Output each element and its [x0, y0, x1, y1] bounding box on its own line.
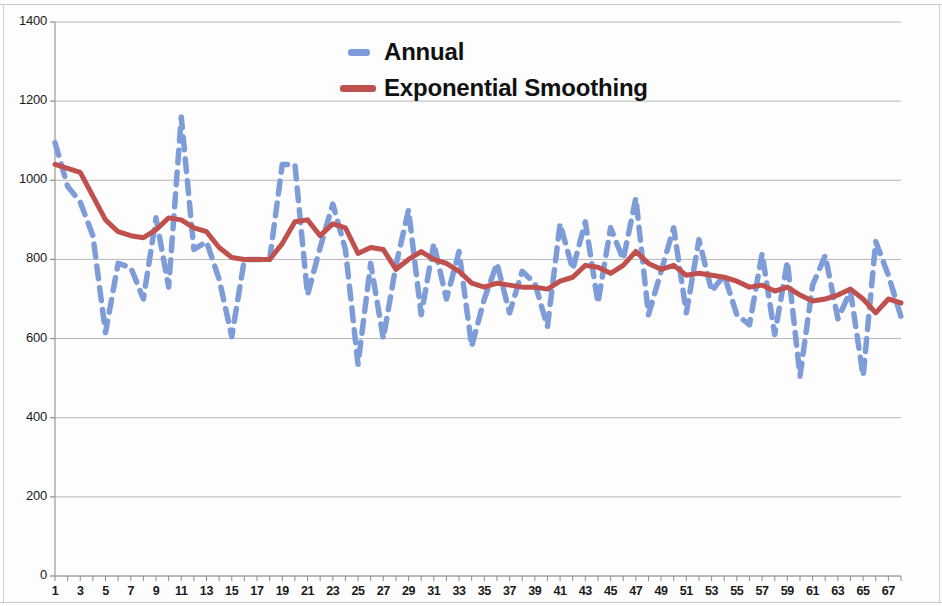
legend-label-annual: Annual — [384, 38, 464, 66]
y-axis-tick-label: 800 — [3, 250, 47, 265]
x-axis-tick-label: 63 — [825, 584, 851, 598]
x-axis-tick-label: 49 — [648, 584, 674, 598]
y-axis-tick-label: 1000 — [3, 171, 47, 186]
x-axis-tick-label: 45 — [598, 584, 624, 598]
legend: Annual Exponential Smoothing — [340, 34, 648, 106]
x-axis-tick-label: 3 — [67, 584, 93, 598]
x-axis-tick-label: 33 — [446, 584, 472, 598]
x-axis-tick-label: 1 — [42, 584, 68, 598]
x-axis-tick-label: 25 — [345, 584, 371, 598]
x-axis-tick-marks — [55, 576, 901, 581]
x-axis-tick-label: 53 — [699, 584, 725, 598]
x-axis-tick-label: 13 — [194, 584, 220, 598]
y-axis-tick-label: 1400 — [3, 13, 47, 28]
x-axis-tick-label: 37 — [497, 584, 523, 598]
x-axis-tick-label: 39 — [522, 584, 548, 598]
x-axis-tick-label: 31 — [421, 584, 447, 598]
y-axis-tick-label: 1200 — [3, 92, 47, 107]
chart-container: 0200400600800100012001400 13579111315171… — [0, 0, 942, 606]
x-axis-tick-label: 19 — [269, 584, 295, 598]
x-axis-tick-label: 9 — [143, 584, 169, 598]
x-axis-tick-label: 29 — [396, 584, 422, 598]
y-axis-tick-label: 600 — [3, 330, 47, 345]
y-axis-tick-marks — [50, 22, 55, 576]
legend-swatch-exponential-smoothing — [340, 85, 376, 92]
x-axis-tick-label: 27 — [370, 584, 396, 598]
legend-swatch-annual — [348, 49, 370, 56]
legend-item-exponential-smoothing: Exponential Smoothing — [340, 70, 648, 106]
x-axis-tick-label: 47 — [623, 584, 649, 598]
x-axis-tick-label: 57 — [749, 584, 775, 598]
x-axis-tick-label: 35 — [471, 584, 497, 598]
series-line-annual — [55, 117, 901, 376]
x-axis-tick-label: 43 — [572, 584, 598, 598]
legend-item-annual: Annual — [340, 34, 648, 70]
x-axis-tick-label: 67 — [875, 584, 901, 598]
x-axis-tick-label: 11 — [168, 584, 194, 598]
x-axis-tick-label: 51 — [673, 584, 699, 598]
series-line-exponential-smoothing — [55, 164, 901, 312]
data-series-layer — [55, 117, 901, 376]
x-axis-tick-label: 59 — [774, 584, 800, 598]
x-axis-tick-label: 41 — [547, 584, 573, 598]
x-axis-tick-label: 7 — [118, 584, 144, 598]
x-axis-tick-label: 23 — [320, 584, 346, 598]
x-axis-tick-label: 21 — [295, 584, 321, 598]
x-axis-tick-label: 61 — [800, 584, 826, 598]
x-axis-tick-label: 17 — [244, 584, 270, 598]
x-axis-tick-label: 5 — [93, 584, 119, 598]
x-axis-tick-label: 65 — [850, 584, 876, 598]
x-axis-tick-label: 55 — [724, 584, 750, 598]
legend-label-exponential-smoothing: Exponential Smoothing — [384, 74, 648, 102]
y-axis-tick-label: 0 — [3, 567, 47, 582]
x-axis-tick-label: 15 — [219, 584, 245, 598]
y-axis-tick-label: 400 — [3, 409, 47, 424]
y-axis-tick-label: 200 — [3, 488, 47, 503]
